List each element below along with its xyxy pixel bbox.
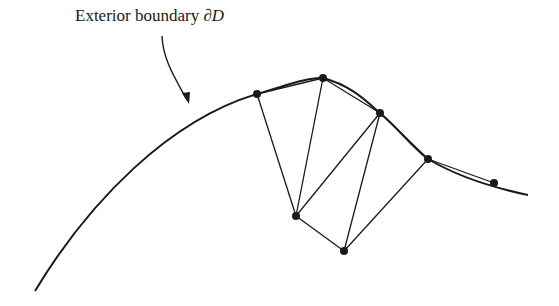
mesh-node: [292, 212, 300, 220]
pointer-arrow: [162, 36, 187, 100]
boundary-label: Exterior boundary ∂D: [75, 6, 224, 26]
mesh-edge: [257, 78, 323, 94]
triangulation-diagram: [0, 0, 559, 306]
arrow-head-icon: [182, 92, 190, 104]
mesh-edges: [257, 78, 494, 251]
mesh-edge: [323, 78, 380, 113]
mesh-node: [424, 155, 432, 163]
mesh-nodes: [253, 74, 498, 255]
mesh-edge: [257, 94, 296, 216]
mesh-node: [340, 247, 348, 255]
mesh-edge: [296, 113, 380, 216]
mesh-node: [253, 90, 261, 98]
mesh-edge: [296, 78, 323, 216]
exterior-boundary-curve: [35, 78, 528, 291]
mesh-node: [376, 109, 384, 117]
mesh-node: [319, 74, 327, 82]
mesh-node: [490, 179, 498, 187]
mesh-edge: [296, 216, 344, 251]
mesh-edge: [344, 113, 380, 251]
mesh-edge: [380, 113, 428, 159]
mesh-edge: [428, 159, 494, 183]
boundary-symbol: ∂D: [203, 6, 224, 25]
boundary-label-text: Exterior boundary: [75, 6, 203, 25]
